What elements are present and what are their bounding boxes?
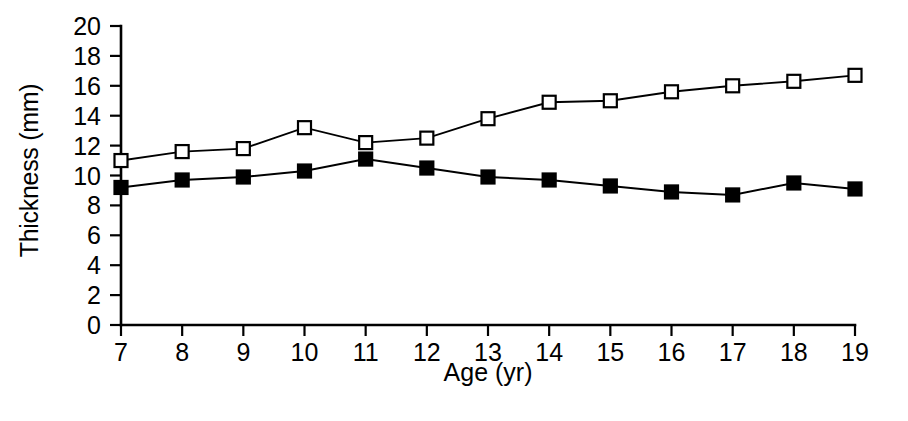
y-axis-tick-labels: 02468101214161820 [73,12,101,339]
y-tick-label: 10 [73,162,101,190]
y-tick-label: 16 [73,72,101,100]
data-point-filled-square-series [115,181,128,194]
data-point-filled-square-series [543,173,556,186]
data-point-filled-square-series [420,162,433,175]
x-axis-tick-marks [121,325,855,336]
data-point-filled-square-series [237,170,250,183]
data-point-open-square-series [420,132,433,145]
y-tick-label: 18 [73,42,101,70]
y-tick-label: 14 [73,102,101,130]
data-point-filled-square-series [849,182,862,195]
y-tick-label: 12 [73,132,101,160]
data-point-filled-square-series [787,176,800,189]
y-axis-tick-marks [110,26,121,325]
data-point-filled-square-series [176,173,189,186]
data-point-open-square-series [482,112,495,125]
y-tick-label: 2 [87,281,101,309]
data-point-open-square-series [665,85,678,98]
y-tick-label: 20 [73,12,101,40]
y-tick-label: 4 [87,251,101,279]
x-axis-title: Age (yr) [121,358,855,387]
data-point-open-square-series [787,75,800,88]
y-tick-label: 8 [87,191,101,219]
y-tick-label: 6 [87,221,101,249]
data-point-open-square-series [237,142,250,155]
y-tick-label: 0 [87,311,101,339]
data-point-open-square-series [115,154,128,167]
data-point-open-square-series [298,121,311,134]
data-point-filled-square-series [482,170,495,183]
chart-figure: Thickness (mm) 02468101214161820 7891011… [0,0,908,421]
series-markers [115,69,862,202]
data-point-open-square-series [176,145,189,158]
data-point-filled-square-series [726,188,739,201]
data-point-open-square-series [726,79,739,92]
data-point-open-square-series [543,96,556,109]
data-point-open-square-series [359,136,372,149]
data-point-open-square-series [604,94,617,107]
data-point-open-square-series [849,69,862,82]
data-point-filled-square-series [604,179,617,192]
x-axis-title-text: Age (yr) [444,358,533,386]
data-point-filled-square-series [298,165,311,178]
data-point-filled-square-series [665,185,678,198]
data-point-filled-square-series [359,153,372,166]
